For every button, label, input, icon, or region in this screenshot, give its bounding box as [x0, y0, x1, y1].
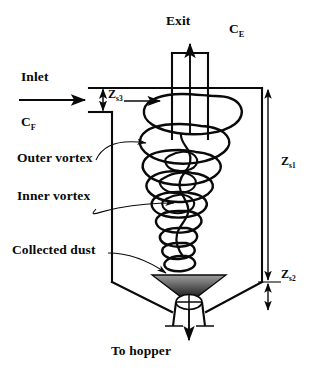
exit-label: Exit: [166, 14, 190, 28]
z-s1-subscript: s1: [289, 161, 296, 170]
feed-concentration-subscript: F: [31, 123, 36, 132]
feed-concentration-symbol: C: [21, 114, 31, 129]
z-s2-label: Zs2: [281, 268, 296, 283]
exit-concentration-subscript: E: [239, 30, 245, 39]
z-s3-label: Zs3: [108, 88, 123, 103]
z-s1-label: Zs1: [281, 155, 296, 170]
z-s3-subscript: s3: [116, 94, 123, 103]
cone-right-wall: [206, 282, 262, 312]
cyclone-separator-figure: Exit CE Inlet CF Zs3 Zs1 Zs2 Outer vorte…: [0, 0, 318, 373]
collected-dust-leader: [108, 253, 166, 273]
outer-vortex-leader: [96, 142, 146, 160]
exit-concentration-label: CE: [229, 22, 244, 39]
outer-vortex-label: Outer vortex: [17, 151, 93, 165]
z-s2-subscript: s2: [289, 274, 296, 283]
inlet-label: Inlet: [21, 70, 49, 84]
cyclone-diagram-svg: [0, 0, 318, 373]
feed-concentration-label: CF: [21, 115, 36, 132]
exit-concentration-symbol: C: [229, 21, 239, 36]
z-s1-symbol: Z: [281, 154, 289, 168]
vortex-loop-1: [144, 94, 242, 134]
cone-left-wall: [112, 282, 172, 312]
z-s2-symbol: Z: [281, 267, 289, 281]
inner-vortex-loop-c: [165, 152, 197, 171]
to-hopper-label: To hopper: [111, 344, 171, 358]
collected-dust-label: Collected dust: [12, 243, 96, 257]
inner-vortex-label: Inner vortex: [17, 189, 90, 203]
z-s3-symbol: Z: [108, 87, 116, 101]
